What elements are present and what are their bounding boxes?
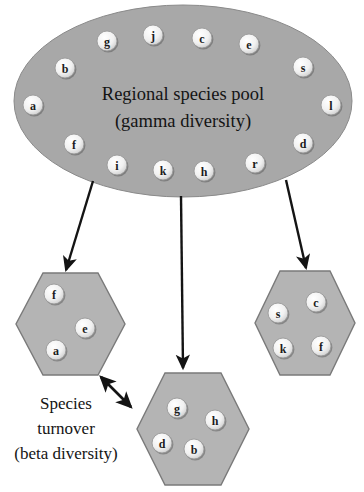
pool-title-line1: Regional species pool (102, 84, 264, 104)
arrow-pool-to-middle-community (181, 196, 183, 368)
species-bead-label: c (313, 296, 319, 310)
arrow-pool-to-right-community (286, 180, 306, 268)
species-turnover-arrow (101, 377, 131, 407)
right-community-hexagon (255, 271, 355, 375)
species-bead-label: d (159, 437, 166, 451)
species-bead-label: r (252, 157, 258, 171)
diagram-canvas: Regional species pool (gamma diversity) … (0, 0, 364, 492)
species-bead-label: a (53, 344, 59, 358)
turnover-label-line2: turnover (37, 419, 95, 438)
species-bead-label: e (246, 38, 252, 52)
species-pool-diagram: Regional species pool (gamma diversity) … (0, 0, 364, 492)
species-bead-label: s (276, 307, 281, 321)
species-bead-label: c (199, 32, 205, 46)
left-community-hexagon (16, 273, 125, 375)
species-bead-label: g (174, 402, 180, 416)
species-bead-label: e (82, 322, 88, 336)
species-bead-label: g (104, 35, 110, 49)
species-bead-label: b (191, 443, 198, 457)
species-bead-label: s (301, 61, 306, 75)
arrow-pool-to-left-community (66, 181, 93, 270)
species-bead-label: k (160, 164, 167, 178)
species-bead-label: b (62, 62, 69, 76)
species-bead-label: j (150, 29, 155, 43)
turnover-label-line1: Species (40, 394, 92, 413)
middle-community-hexagon (137, 373, 249, 485)
turnover-label-line3: (beta diversity) (14, 444, 117, 463)
species-bead-label: a (30, 99, 36, 113)
species-bead-label: k (280, 342, 287, 356)
species-bead-label: h (212, 414, 219, 428)
species-bead-label: h (201, 165, 208, 179)
species-bead-label: d (300, 137, 307, 151)
pool-title-line2: (gamma diversity) (115, 111, 251, 132)
